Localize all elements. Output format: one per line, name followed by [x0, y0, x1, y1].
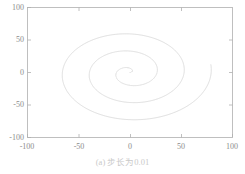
- figure-panel: 100 50 0 -50 -100 -100 -50 0 50 100 (a) …: [0, 0, 245, 174]
- x-tick-label-100: 100: [217, 142, 245, 151]
- y-tick-label-neg50: -50: [2, 100, 24, 109]
- figure-caption: (a) 步长为0.01: [0, 156, 245, 168]
- y-tick-label-neg100: -100: [2, 133, 24, 142]
- x-tick-label-50: 50: [166, 142, 196, 151]
- x-axis-ticks: [28, 134, 233, 138]
- x-tick-label-neg50: -50: [64, 142, 94, 151]
- y-axis-ticks-right: [229, 40, 233, 105]
- y-tick-label-100: 100: [2, 3, 24, 12]
- y-tick-label-0: 0: [2, 68, 24, 77]
- spiral-curve: [62, 34, 211, 120]
- x-axis-ticks-top: [79, 8, 182, 12]
- x-tick-label-0: 0: [115, 142, 145, 151]
- y-axis-ticks: [28, 8, 32, 138]
- x-tick-label-neg100: -100: [12, 142, 42, 151]
- y-tick-label-50: 50: [2, 35, 24, 44]
